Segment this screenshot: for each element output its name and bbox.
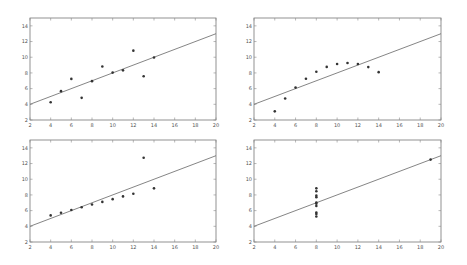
data-point (153, 56, 156, 59)
data-point (315, 187, 318, 190)
y-tick-label: 2 (25, 117, 28, 123)
y-tick-label: 2 (249, 239, 252, 245)
data-point (111, 71, 114, 74)
data-point (101, 65, 104, 68)
y-tick-label: 10 (246, 54, 252, 60)
x-tick-label: 16 (396, 122, 402, 128)
x-tick-label: 20 (213, 122, 219, 128)
y-tick-label: 4 (249, 223, 252, 229)
panel-2: 24681012141618202468101214 (246, 18, 445, 128)
data-point (132, 192, 135, 195)
data-point (49, 101, 52, 104)
x-tick-label: 2 (28, 122, 31, 128)
data-point (429, 158, 432, 161)
y-tick-label: 4 (249, 101, 252, 107)
data-point (91, 203, 94, 206)
data-point (91, 80, 94, 83)
data-point (111, 198, 114, 201)
data-point (325, 66, 328, 69)
x-tick-label: 14 (375, 122, 381, 128)
panel-1: 24681012141618202468101214 (22, 18, 220, 128)
data-point (80, 97, 83, 100)
y-tick-label: 8 (25, 192, 28, 198)
data-point (315, 202, 318, 205)
data-point (367, 66, 370, 69)
data-point (60, 211, 63, 214)
data-point (49, 214, 52, 217)
x-tick-label: 4 (49, 244, 52, 250)
y-tick-label: 6 (249, 207, 252, 213)
y-tick-label: 14 (246, 145, 252, 151)
x-tick-label: 6 (294, 122, 297, 128)
data-point (70, 78, 73, 81)
data-point (153, 187, 156, 190)
y-tick-label: 8 (249, 70, 252, 76)
data-point (315, 213, 318, 216)
x-tick-label: 18 (417, 122, 423, 128)
y-tick-label: 10 (22, 54, 28, 60)
x-tick-label: 12 (130, 244, 136, 250)
x-tick-label: 16 (396, 244, 402, 250)
x-tick-label: 14 (375, 244, 381, 250)
data-point (132, 49, 135, 52)
y-tick-label: 12 (22, 160, 28, 166)
y-tick-label: 8 (25, 70, 28, 76)
y-tick-label: 4 (25, 101, 28, 107)
data-point (122, 69, 125, 72)
x-tick-label: 8 (90, 244, 93, 250)
y-tick-label: 14 (246, 23, 252, 29)
y-tick-label: 2 (249, 117, 252, 123)
x-tick-label: 6 (70, 122, 73, 128)
data-point (294, 86, 297, 89)
data-point (315, 190, 318, 193)
x-tick-label: 12 (130, 122, 136, 128)
x-tick-label: 12 (355, 122, 361, 128)
x-tick-label: 18 (192, 244, 198, 250)
y-tick-label: 8 (249, 192, 252, 198)
anscombe-quartet-figure: 2468101214161820246810121424681012141618… (0, 0, 467, 265)
x-tick-label: 4 (273, 244, 276, 250)
x-tick-label: 4 (49, 122, 52, 128)
x-tick-label: 10 (334, 244, 340, 250)
data-point (315, 194, 318, 197)
x-tick-label: 16 (171, 122, 177, 128)
data-point (80, 206, 83, 209)
data-point (315, 215, 318, 218)
y-tick-label: 2 (25, 239, 28, 245)
data-point (273, 110, 276, 113)
data-point (357, 63, 360, 66)
data-point (377, 71, 380, 74)
data-point (142, 75, 145, 78)
data-point (142, 156, 145, 159)
x-tick-label: 2 (28, 244, 31, 250)
y-tick-label: 14 (22, 145, 28, 151)
y-tick-label: 12 (246, 160, 252, 166)
y-tick-label: 12 (246, 38, 252, 44)
x-tick-label: 20 (438, 122, 444, 128)
data-point (122, 195, 125, 198)
x-tick-label: 10 (334, 122, 340, 128)
x-tick-label: 18 (192, 122, 198, 128)
x-tick-label: 8 (315, 122, 318, 128)
x-tick-label: 8 (315, 244, 318, 250)
x-tick-label: 6 (294, 244, 297, 250)
panel-4: 24681012141618202468101214 (246, 140, 445, 250)
y-tick-label: 6 (25, 207, 28, 213)
y-tick-label: 10 (246, 176, 252, 182)
data-point (101, 201, 104, 204)
data-point (305, 77, 308, 80)
y-tick-label: 14 (22, 23, 28, 29)
x-tick-label: 4 (273, 122, 276, 128)
y-tick-label: 4 (25, 223, 28, 229)
data-point (284, 97, 287, 100)
x-tick-label: 2 (252, 244, 255, 250)
x-tick-label: 14 (151, 244, 157, 250)
y-tick-label: 6 (25, 85, 28, 91)
panel-3: 24681012141618202468101214 (22, 140, 220, 250)
x-tick-label: 20 (438, 244, 444, 250)
x-tick-label: 14 (151, 122, 157, 128)
x-tick-label: 16 (171, 244, 177, 250)
x-tick-label: 6 (70, 244, 73, 250)
x-tick-label: 10 (109, 122, 115, 128)
y-tick-label: 6 (249, 85, 252, 91)
